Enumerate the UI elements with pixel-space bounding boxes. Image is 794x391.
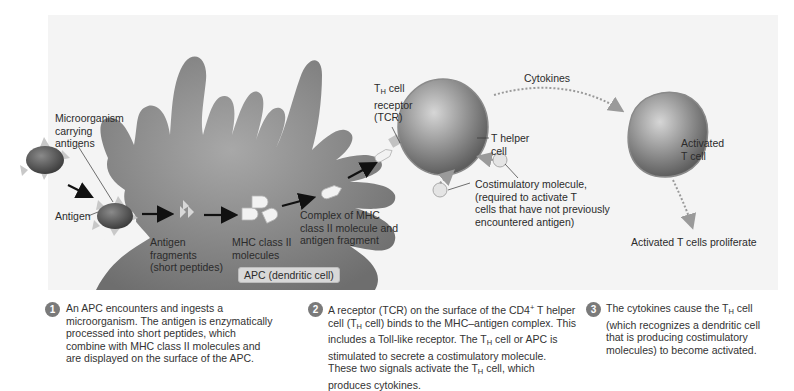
proliferate-arrow — [673, 180, 692, 226]
label-line: Microorganism — [55, 112, 124, 125]
step-badge-2: 2 — [308, 302, 323, 317]
text-part: The cytokines cause the T — [606, 302, 728, 314]
label-line: T helper — [491, 132, 529, 145]
label-line: TH cell — [374, 82, 413, 99]
label-line: cells that have not previously — [475, 203, 610, 216]
label-line: molecules — [232, 249, 292, 262]
label-line: (short peptides) — [150, 261, 223, 274]
label-line: Costimulatory molecule, — [475, 178, 610, 191]
step-3-text: The cytokines cause the TH cell (which r… — [606, 302, 766, 356]
label-mhc-molecules: MHC class II molecules — [232, 236, 292, 261]
label-line: MHC class II — [232, 236, 292, 249]
text-part: A receptor (TCR) on the surface of the C… — [328, 304, 530, 316]
label-costimulatory: Costimulatory molecule, (required to act… — [475, 178, 610, 228]
label-cytokines: Cytokines — [524, 72, 570, 85]
label-antigen: Antigen — [55, 210, 91, 223]
label-line: T cell — [681, 150, 724, 163]
label-line: antigen fragment — [300, 234, 398, 247]
label-line: fragments — [150, 249, 223, 262]
cytokines-arrow — [494, 88, 621, 110]
step-2-text: A receptor (TCR) on the surface of the C… — [328, 302, 576, 391]
label-line: (required to activate T — [475, 191, 610, 204]
arrow-ingest — [68, 185, 90, 196]
step-badge-3: 3 — [586, 302, 601, 317]
label-proliferate: Activated T cells proliferate — [631, 236, 757, 249]
step-1-text: An APC encounters and ingests a microorg… — [66, 302, 278, 365]
label-part: cell — [386, 82, 405, 94]
label-tcr: TH cell receptor (TCR) — [374, 82, 413, 124]
label-line: carrying — [55, 125, 124, 138]
label-t-helper: T helper cell — [491, 132, 529, 157]
activated-t-cell — [628, 92, 708, 177]
label-line: receptor — [374, 99, 413, 112]
label-apc: APC (dendritic cell) — [238, 267, 340, 283]
label-line: class II molecule and — [300, 222, 398, 235]
label-line: Complex of MHC — [300, 209, 398, 222]
label-microorganism: Microorganism carrying antigens — [55, 112, 124, 150]
label-mhc-complex: Complex of MHC class II molecule and ant… — [300, 209, 398, 247]
label-line: encountered antigen) — [475, 216, 610, 229]
label-activated-t-cell: Activated T cell — [681, 137, 724, 162]
label-antigen-fragments: Antigen fragments (short peptides) — [150, 236, 223, 274]
label-line: (TCR) — [374, 111, 413, 124]
label-line: Activated — [681, 137, 724, 150]
step-badge-1: 1 — [45, 302, 60, 317]
label-line: Antigen — [150, 236, 223, 249]
label-line: antigens — [55, 137, 124, 150]
label-line: cell — [491, 145, 529, 158]
